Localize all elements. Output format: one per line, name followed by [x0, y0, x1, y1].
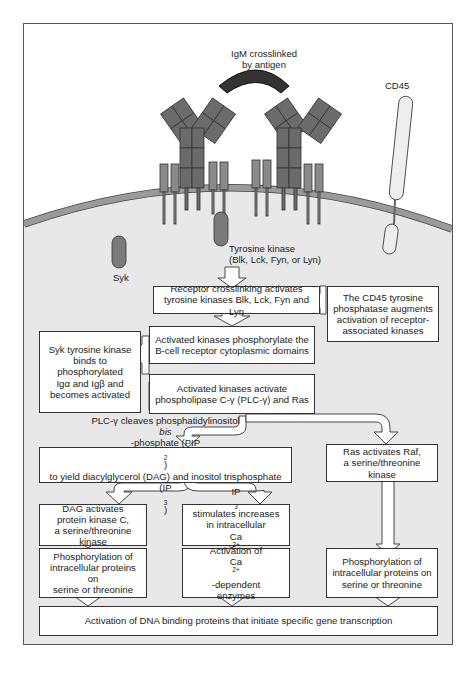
tyrosine-kinase-label: Tyrosine kinase (Blk, Lck, Fyn, or Lyn): [229, 243, 321, 265]
box-phospho-right: Phosphorylation ofintracellular proteins…: [326, 548, 438, 598]
box-phosphorylate-domains: Activated kinases phosphorylate theB-cel…: [149, 326, 315, 364]
box-dag-pkc: DAG activatesprotein kinase C,a serine/t…: [39, 504, 147, 546]
box-phospho-left: Phosphorylation ofintracellular proteins…: [39, 548, 147, 598]
tyrosine-kinase: [214, 212, 228, 246]
igm-label: IgM crosslinked by antigen: [214, 48, 314, 70]
box-ip3-calcium: IP3 stimulates increases in intracellula…: [182, 504, 290, 546]
antigen: [219, 70, 289, 93]
box-dna-binding: Activation of DNA binding proteins that …: [39, 606, 438, 636]
box-receptor-crosslinking: Receptor crosslinking activatestyrosine …: [153, 286, 320, 314]
cd45-label: CD45: [385, 80, 409, 91]
box-cd45-phosphatase: The CD45 tyrosinephosphatase augmentsact…: [327, 286, 439, 342]
box-ras-raf: Ras activates Raf,a serine/threonine kin…: [326, 444, 438, 482]
box-ca-enzymes: Activation of Ca2+-dependent enzymes: [182, 548, 290, 598]
syk-label: Syk: [113, 272, 129, 283]
box-plc-cleaves: PLC-γ cleaves phosphatidylinositol bis-p…: [39, 447, 292, 483]
box-activate-plc: Activated kinases activatephospholipase …: [149, 374, 315, 414]
diagram-frame: IgM crosslinked by antigen CD45 Syk Tyro…: [23, 23, 453, 645]
box-syk-binds: Syk tyrosine kinasebinds to phosphorylat…: [39, 331, 141, 413]
syk-kinase: [112, 236, 126, 268]
